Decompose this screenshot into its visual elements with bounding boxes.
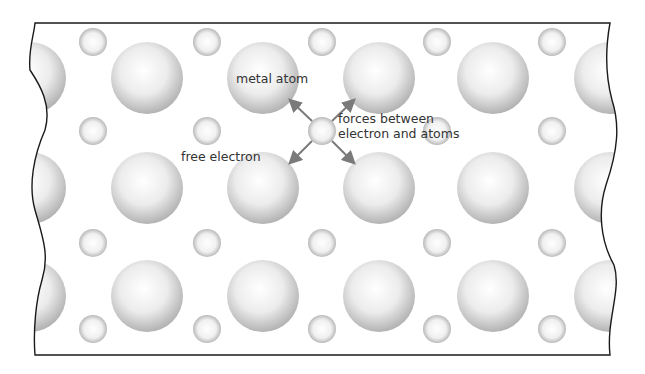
free-electron bbox=[308, 229, 336, 257]
metal-atom bbox=[0, 260, 66, 332]
free-electron bbox=[423, 28, 451, 56]
metal-atom bbox=[457, 260, 529, 332]
free-electron bbox=[79, 229, 107, 257]
metal-atom bbox=[111, 260, 183, 332]
free-electron bbox=[193, 117, 221, 145]
metal-atom bbox=[0, 152, 66, 224]
free-electron bbox=[538, 28, 566, 56]
metal-atom bbox=[0, 42, 66, 114]
lattice bbox=[0, 28, 645, 343]
metal-atom bbox=[457, 42, 529, 114]
free-electron bbox=[193, 315, 221, 343]
metal-atom bbox=[111, 152, 183, 224]
label-free-electron: free electron bbox=[181, 149, 261, 164]
free-electron bbox=[79, 315, 107, 343]
label-forces-line1: forces between bbox=[338, 111, 434, 126]
metal-atom bbox=[111, 42, 183, 114]
highlighted-electron bbox=[308, 117, 336, 145]
metal-atom bbox=[343, 152, 415, 224]
metal-atom bbox=[343, 42, 415, 114]
label-metal-atom: metal atom bbox=[236, 71, 308, 86]
metal-atom bbox=[343, 260, 415, 332]
free-electron bbox=[538, 229, 566, 257]
metal-atom bbox=[574, 152, 645, 224]
force-arrow-icon bbox=[332, 141, 353, 162]
free-electron bbox=[308, 315, 336, 343]
metal-atom bbox=[574, 260, 645, 332]
label-forces-line2: electron and atoms bbox=[338, 126, 459, 141]
force-arrow-icon bbox=[291, 101, 312, 121]
free-electron bbox=[423, 315, 451, 343]
free-electron bbox=[308, 28, 336, 56]
free-electron bbox=[79, 28, 107, 56]
metal-atom bbox=[227, 260, 299, 332]
metal-atom bbox=[574, 42, 645, 114]
free-electron bbox=[538, 315, 566, 343]
free-electron bbox=[423, 229, 451, 257]
metallic-bonding-diagram: metal atom free electron forces between … bbox=[0, 0, 645, 374]
free-electron bbox=[193, 28, 221, 56]
free-electron bbox=[79, 117, 107, 145]
metal-atom bbox=[457, 152, 529, 224]
free-electron bbox=[538, 117, 566, 145]
force-arrow-icon bbox=[291, 141, 312, 162]
diagram-canvas bbox=[0, 0, 645, 374]
free-electron bbox=[193, 229, 221, 257]
